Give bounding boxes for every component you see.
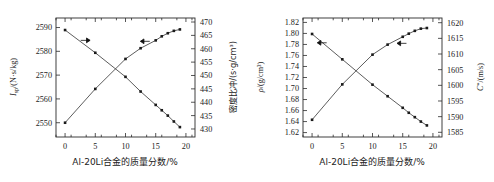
- data-point: [311, 33, 314, 36]
- series-group-left: [64, 28, 181, 128]
- y-left-tick-label: 1.66: [285, 106, 299, 115]
- data-point: [124, 76, 127, 79]
- data-point: [341, 83, 344, 86]
- y-right-tick-label: 430: [200, 125, 212, 134]
- data-point: [167, 32, 170, 35]
- y-axis-right-ticks-left: 430435440445450455460465470: [191, 18, 212, 134]
- y-right-tick-label: 1600: [447, 81, 463, 90]
- data-point: [179, 28, 182, 31]
- data-point: [386, 43, 389, 46]
- svg-text:Isp/(N·s/kg): Isp/(N·s/kg): [9, 58, 19, 97]
- y-left-tick-label: 1.68: [285, 95, 299, 104]
- x-tick-label: 0: [63, 142, 67, 151]
- data-point: [64, 29, 67, 32]
- data-point: [160, 109, 163, 112]
- chart-left-svg: 05101520 25502560257025802590 4304354404…: [0, 0, 247, 182]
- y-left-tick-label: 1.80: [285, 29, 299, 38]
- data-point: [167, 114, 170, 117]
- y-right-tick-label: 445: [200, 85, 212, 94]
- y-left-tick-label: 1.70: [285, 84, 299, 93]
- data-point: [160, 35, 163, 38]
- data-point: [173, 30, 176, 33]
- y-left-tick-label: 2580: [36, 47, 52, 56]
- data-point: [311, 118, 314, 121]
- data-point: [371, 83, 374, 86]
- y-axis-right-label-right: C*/(m/s): [476, 63, 486, 91]
- data-point: [386, 95, 389, 98]
- arrow-to-left-axis-upper-head: [317, 40, 321, 45]
- series-group-right: [311, 27, 428, 127]
- y-axis-left-label-right: ρ/(g/cm³): [256, 61, 265, 93]
- y-axis-right-label-left: 密度比冲/(s·g/cm³): [228, 41, 238, 113]
- y-right-tick-label: 440: [200, 98, 212, 107]
- x-tick-label: 15: [152, 142, 160, 151]
- y-right-tick-label: 470: [200, 18, 212, 27]
- data-point: [371, 53, 374, 56]
- y-left-tick-label: 1.82: [285, 18, 299, 27]
- y-left-label-rest: /(N·s/kg): [9, 58, 18, 88]
- x-tick-label: 20: [182, 142, 190, 151]
- y-left-tick-label: 1.74: [285, 62, 299, 71]
- x-axis-label-right: Al-20Li合金的质量分数/%: [319, 156, 425, 167]
- x-tick-label: 20: [429, 142, 437, 151]
- y-left-tick-label: 2590: [36, 23, 52, 32]
- y-right-tick-label: 435: [200, 112, 212, 121]
- x-axis-ticks-right: 05101520: [303, 18, 439, 151]
- plot-frame-right: [303, 18, 442, 137]
- data-point: [420, 27, 423, 30]
- y-left-tick-label: 2570: [36, 71, 52, 80]
- data-point: [426, 124, 429, 127]
- y-left-tick-label: 1.78: [285, 40, 299, 49]
- y-right-tick-label: 1585: [447, 128, 463, 137]
- y-left-label-rest-r: /(g/cm³): [256, 61, 265, 88]
- y-right-tick-label: 1610: [447, 50, 463, 59]
- data-point: [124, 58, 127, 61]
- data-point: [407, 111, 410, 114]
- y-axis-left-label-left: Isp/(N·s/kg): [9, 58, 19, 97]
- figure-root: 05101520 25502560257025802590 4304354404…: [0, 0, 494, 182]
- y-left-tick-label: 1.64: [285, 117, 299, 126]
- y-axis-left-ticks-right: 1.621.641.661.681.701.721.741.761.781.80…: [285, 18, 307, 137]
- x-tick-label: 5: [93, 142, 97, 151]
- y-right-tick-label: 455: [200, 58, 212, 67]
- chart-right-svg: 05101520 1.621.641.661.681.701.721.741.7…: [247, 0, 494, 182]
- chart-panel-right: 05101520 1.621.641.661.681.701.721.741.7…: [247, 0, 494, 182]
- arrow-annotations-left: [81, 38, 150, 44]
- data-point: [414, 30, 417, 33]
- y-right-label-rest-r: /(m/s): [476, 63, 485, 83]
- data-point: [179, 126, 182, 129]
- x-tick-label: 10: [121, 142, 129, 151]
- y-right-tick-label: 1605: [447, 66, 463, 75]
- data-point: [401, 107, 404, 110]
- series-line-C*: [312, 28, 427, 120]
- y-right-tick-label: 1620: [447, 19, 463, 28]
- y-right-tick-label: 460: [200, 45, 212, 54]
- data-point: [341, 58, 344, 61]
- data-point: [173, 120, 176, 123]
- x-tick-label: 0: [310, 142, 314, 151]
- y-right-tick-label: 465: [200, 31, 212, 40]
- data-point: [154, 39, 157, 42]
- series-line-密度比冲: [65, 30, 180, 127]
- y-left-tick-label: 2550: [36, 119, 52, 128]
- y-left-tick-label: 2560: [36, 95, 52, 104]
- data-point: [414, 116, 417, 119]
- x-tick-label: 10: [368, 142, 376, 151]
- y-right-tick-label: 1615: [447, 34, 463, 43]
- chart-panel-left: 05101520 25502560257025802590 4304354404…: [0, 0, 247, 182]
- data-point: [139, 90, 142, 93]
- x-tick-label: 5: [340, 142, 344, 151]
- arrow-to-left-axis-head: [140, 39, 144, 44]
- y-right-tick-label: 1590: [447, 113, 463, 122]
- data-point: [407, 32, 410, 35]
- arrow-to-left-axis-rising-head: [397, 41, 401, 46]
- data-point: [154, 104, 157, 107]
- data-point: [94, 51, 97, 54]
- data-point: [401, 35, 404, 38]
- data-point: [139, 47, 142, 50]
- y-left-tick-label: 1.72: [285, 73, 299, 82]
- data-point: [420, 120, 423, 123]
- data-point: [64, 121, 67, 124]
- svg-text:C*/(m/s): C*/(m/s): [476, 63, 486, 91]
- y-right-tick-label: 450: [200, 71, 212, 80]
